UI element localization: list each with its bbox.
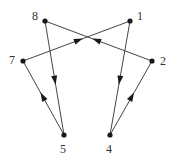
node-4: [107, 132, 112, 137]
arrowheads-group: [40, 39, 134, 102]
node-7: [20, 58, 25, 63]
node-label-7: 7: [9, 53, 15, 67]
edges-group: [23, 21, 152, 135]
nodes-group: [20, 18, 154, 137]
directed-graph: 124578: [0, 0, 176, 161]
arrowhead-icon: [117, 75, 123, 84]
node-label-2: 2: [160, 54, 166, 68]
arrowhead-icon: [40, 93, 47, 102]
labels-group: 124578: [9, 9, 166, 156]
node-label-1: 1: [137, 9, 143, 23]
arrowhead-icon: [127, 93, 134, 102]
node-1: [127, 18, 132, 23]
node-label-8: 8: [32, 9, 38, 23]
node-2: [149, 58, 154, 63]
arrowhead-icon: [73, 39, 82, 45]
node-8: [42, 18, 47, 23]
arrowhead-icon: [92, 39, 101, 45]
node-label-5: 5: [60, 142, 66, 156]
node-label-4: 4: [106, 142, 112, 156]
arrowhead-icon: [51, 75, 57, 84]
node-5: [61, 132, 66, 137]
